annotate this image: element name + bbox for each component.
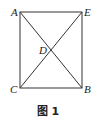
label-e: E	[84, 7, 91, 18]
label-a: A	[11, 7, 18, 18]
label-c: C	[10, 84, 17, 95]
label-d: D	[39, 45, 47, 56]
label-b: B	[84, 84, 91, 95]
figure-caption: 图 1	[0, 102, 96, 118]
